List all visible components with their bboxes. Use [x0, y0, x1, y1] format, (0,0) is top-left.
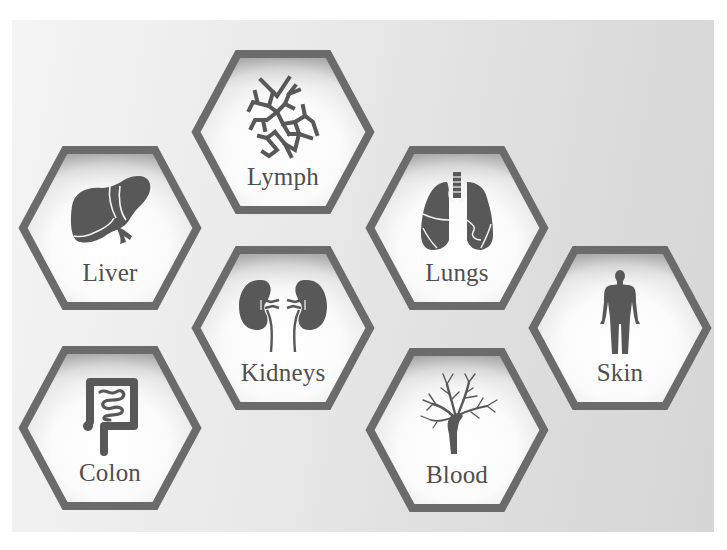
tile-colon: Colon: [19, 346, 201, 510]
lymph-network-icon: [233, 72, 333, 162]
tile-label: Skin: [529, 358, 711, 388]
blood-vessel-tree-icon: [407, 370, 507, 460]
tile-label: Kidneys: [192, 358, 374, 388]
lungs-icon: [407, 168, 507, 258]
tile-label: Lungs: [366, 258, 548, 288]
kidneys-icon: [233, 268, 333, 358]
tile-label: Liver: [19, 258, 201, 288]
human-body-icon: [570, 268, 670, 358]
tile-label: Colon: [19, 458, 201, 488]
tile-liver: Liver: [19, 146, 201, 310]
tile-lymph: Lymph: [192, 50, 374, 214]
tile-label: Lymph: [192, 162, 374, 192]
tile-skin: Skin: [529, 246, 711, 410]
tile-lungs: Lungs: [366, 146, 548, 310]
tile-kidneys: Kidneys: [192, 246, 374, 410]
colon-icon: [60, 368, 160, 458]
tile-label: Blood: [366, 460, 548, 490]
tile-blood: Blood: [366, 348, 548, 512]
liver-icon: [60, 168, 160, 258]
